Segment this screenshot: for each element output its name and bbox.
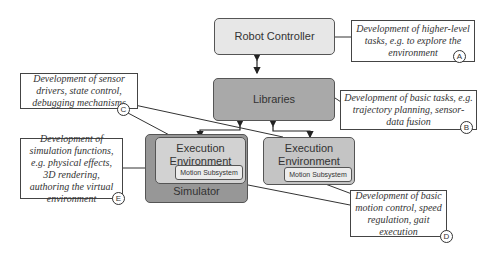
- annotation-c-text: Development of sensor drivers, state con…: [24, 73, 134, 109]
- badge-e: E: [112, 192, 125, 205]
- motion-subsystem-real: Motion Subsystem: [284, 167, 352, 182]
- annotation-d: Development of basic motion control, spe…: [350, 190, 447, 237]
- simulator-label: Simulator: [173, 185, 219, 198]
- badge-a: A: [453, 50, 466, 63]
- robot-controller-node: Robot Controller: [214, 18, 335, 55]
- badge-c: C: [117, 103, 130, 116]
- badge-b: B: [460, 121, 473, 134]
- annotation-b-text: Development of basic tasks, e.g. traject…: [344, 92, 473, 128]
- robot-controller-label: Robot Controller: [234, 30, 314, 43]
- arrow-libraries-exec-real: [273, 126, 310, 137]
- motion-subsystem-sim: Motion Subsystem: [175, 165, 243, 180]
- badge-d: D: [440, 230, 453, 243]
- annotation-b: Development of basic tasks, e.g. traject…: [340, 90, 477, 130]
- annotation-e: Development of simulation functions, e.g…: [20, 138, 123, 199]
- libraries-node: Libraries: [213, 78, 335, 121]
- annotation-e-text: Development of simulation functions, e.g…: [24, 133, 119, 205]
- libraries-label: Libraries: [253, 93, 295, 106]
- annotation-d-text: Development of basic motion control, spe…: [354, 190, 443, 238]
